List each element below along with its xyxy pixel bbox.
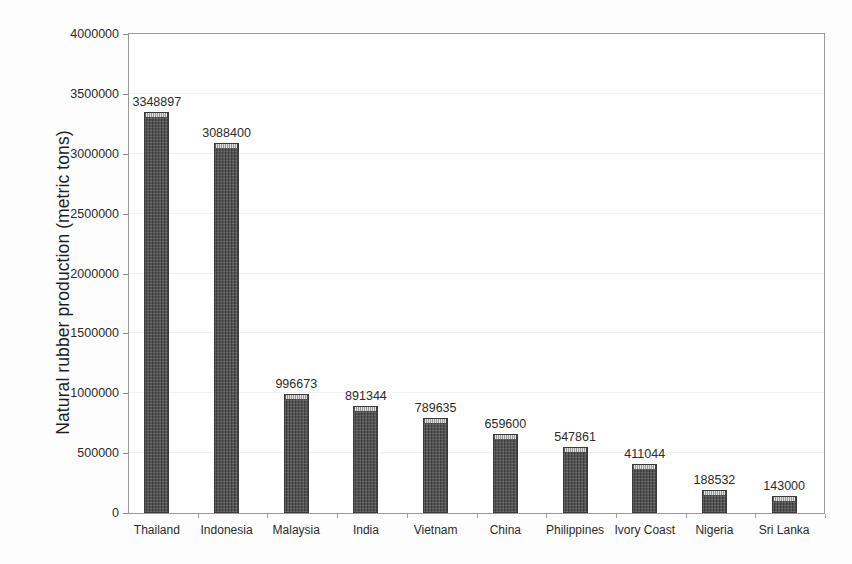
bar-group[interactable]: 411044: [632, 442, 657, 513]
x-tick-label: India: [353, 523, 379, 537]
y-tick-label: 4000000: [70, 27, 119, 41]
bar-group[interactable]: 659600: [493, 412, 518, 513]
bar[interactable]: [772, 496, 797, 513]
bar-group[interactable]: 547861: [563, 425, 588, 513]
x-tick-mark: [337, 514, 338, 518]
bar-group[interactable]: 3348897: [144, 90, 169, 513]
y-axis-title: Natural rubber production (metric tons): [53, 53, 74, 513]
bar-group[interactable]: 143000: [772, 474, 797, 513]
bar-value-label: 143000: [763, 479, 805, 493]
x-tick-label: Nigeria: [695, 523, 733, 537]
y-tick-label: 3000000: [70, 147, 119, 161]
bar-group[interactable]: 996673: [284, 372, 309, 513]
bar[interactable]: [632, 464, 657, 513]
bar[interactable]: [702, 490, 727, 513]
y-tick-label: 500000: [77, 446, 119, 460]
x-tick-label: Ivory Coast: [614, 523, 675, 537]
y-tick-label: 3500000: [70, 87, 119, 101]
bar[interactable]: [493, 434, 518, 513]
bar[interactable]: [214, 143, 239, 513]
y-tick-label: 1500000: [70, 326, 119, 340]
x-tick-label: Vietnam: [414, 523, 458, 537]
x-tick-label: China: [490, 523, 521, 537]
y-tick-label: 1000000: [70, 386, 119, 400]
x-tick-mark: [407, 514, 408, 518]
bar-group[interactable]: 188532: [702, 468, 727, 513]
y-tick-label: 2000000: [70, 267, 119, 281]
bar-value-label: 3348897: [133, 95, 182, 109]
bar-chart: Natural rubber production (metric tons) …: [0, 0, 852, 564]
bar-value-label: 891344: [345, 389, 387, 403]
bar[interactable]: [423, 418, 448, 513]
x-tick-mark: [198, 514, 199, 518]
x-tick-label: Sri Lanka: [759, 523, 810, 537]
bars-layer: 3348897308840099667389134478963565960054…: [128, 33, 825, 514]
bar-value-label: 411044: [624, 447, 665, 461]
bar-value-label: 996673: [275, 377, 317, 391]
x-tick-mark: [546, 514, 547, 518]
x-tick-label: Philippines: [546, 523, 604, 537]
bar[interactable]: [284, 394, 309, 513]
bar-group[interactable]: 891344: [353, 384, 378, 513]
bar-group[interactable]: 3088400: [214, 121, 239, 513]
x-tick-mark: [267, 514, 268, 518]
y-tick-label: 0: [112, 506, 119, 520]
x-tick-mark: [616, 514, 617, 518]
x-tick-mark: [477, 514, 478, 518]
bar-group[interactable]: 789635: [423, 396, 448, 513]
x-tick-label: Indonesia: [201, 523, 253, 537]
bar[interactable]: [144, 112, 169, 513]
bar-value-label: 3088400: [202, 126, 251, 140]
x-tick-mark: [686, 514, 687, 518]
bar[interactable]: [353, 406, 378, 513]
bar-value-label: 789635: [415, 401, 457, 415]
bar[interactable]: [563, 447, 588, 513]
x-tick-label: Thailand: [134, 523, 180, 537]
x-tick-label: Malaysia: [273, 523, 320, 537]
y-tick-label: 2500000: [70, 207, 119, 221]
x-tick-mark: [825, 514, 826, 518]
bar-value-label: 659600: [484, 417, 526, 431]
x-tick-mark: [755, 514, 756, 518]
bar-value-label: 547861: [554, 430, 596, 444]
bar-value-label: 188532: [694, 473, 736, 487]
